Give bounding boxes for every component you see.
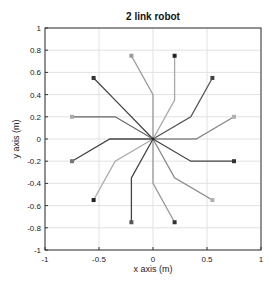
- x-tick-label: 0.5: [201, 255, 213, 264]
- y-tick-label: 0: [37, 135, 42, 144]
- x-axis-label: x axis (m): [134, 264, 173, 274]
- end-effector-marker: [210, 76, 214, 80]
- end-effector-marker: [232, 115, 236, 119]
- robot-arm-link: [72, 139, 153, 161]
- y-tick-label: -0.6: [27, 202, 41, 211]
- y-axis-label: y axis (m): [11, 120, 21, 159]
- end-effector-marker: [129, 220, 133, 224]
- robot-chart: 2 link robot -1-0.500.51 10.80.60.40.20-…: [0, 0, 278, 292]
- robot-arm-link: [131, 139, 153, 222]
- end-effector-marker: [92, 76, 96, 80]
- robot-arm-link: [131, 56, 153, 139]
- y-tick-label: -1: [34, 246, 42, 255]
- end-effector-marker: [70, 115, 74, 119]
- y-tick-label: 0.6: [30, 68, 42, 77]
- robot-arm-link: [94, 139, 153, 200]
- robot-arm-link: [153, 139, 212, 200]
- robot-arm-link: [153, 117, 234, 139]
- y-tick-label: 0.4: [30, 91, 42, 100]
- end-effector-marker: [92, 198, 96, 202]
- base-joint-marker: [152, 138, 155, 141]
- robot-arm-link: [153, 139, 234, 161]
- end-effector-marker: [70, 159, 74, 163]
- x-tick-label: 0: [151, 255, 156, 264]
- end-effector-marker: [173, 54, 177, 58]
- x-tick-label: -1: [41, 255, 49, 264]
- end-effector-marker: [210, 198, 214, 202]
- y-tick-label: -0.8: [27, 224, 41, 233]
- robot-arm-link: [72, 117, 153, 139]
- y-tick-label: 0.2: [30, 113, 42, 122]
- end-effector-marker: [129, 54, 133, 58]
- x-tick-label: 1: [259, 255, 264, 264]
- robot-arm-link: [94, 78, 153, 139]
- y-tick-label: -0.4: [27, 179, 41, 188]
- chart-title: 2 link robot: [126, 11, 181, 22]
- y-tick-label: 0.8: [30, 46, 42, 55]
- end-effector-marker: [173, 220, 177, 224]
- robot-arm-link: [153, 56, 175, 139]
- robot-arm-link: [153, 139, 175, 222]
- robot-arm-link: [153, 78, 212, 139]
- end-effector-marker: [232, 159, 236, 163]
- y-tick-label: -0.2: [27, 157, 41, 166]
- x-tick-label: -0.5: [92, 255, 106, 264]
- y-tick-label: 1: [37, 24, 42, 33]
